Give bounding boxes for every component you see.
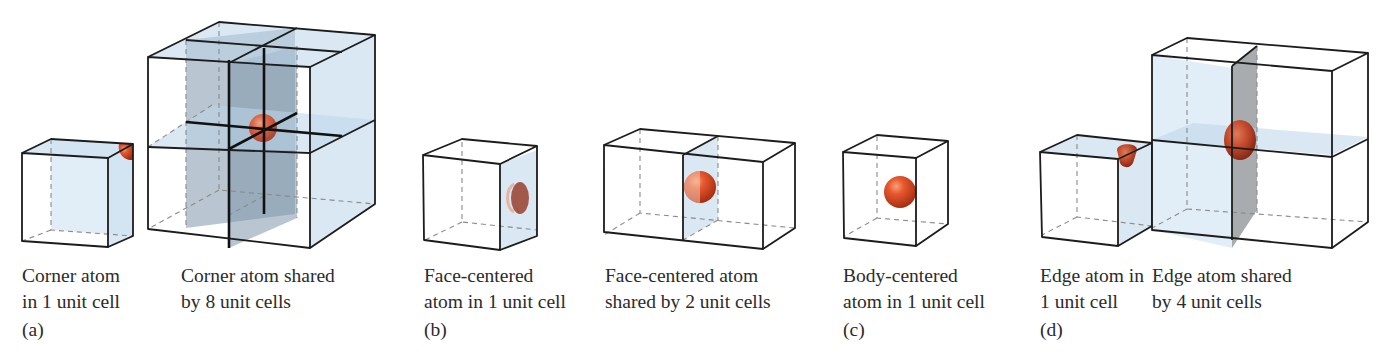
caption-line: atom in 1 unit cell xyxy=(843,289,985,315)
caption-edge-atom-4-cells: Edge atom shared by 4 unit cells xyxy=(1152,263,1292,315)
cube-face-atom-2-cells xyxy=(604,129,795,249)
caption-corner-atom-1-cell: Corner atom in 1 unit cell xyxy=(22,263,120,315)
caption-line: Edge atom in xyxy=(1040,263,1144,289)
panel-label-b: (b) xyxy=(424,318,447,342)
caption-line: Edge atom shared xyxy=(1152,263,1292,289)
caption-edge-atom-1-cell: Edge atom in 1 unit cell xyxy=(1040,263,1144,315)
caption-line: by 8 unit cells xyxy=(181,289,335,315)
cube-edge-atom-4-cells xyxy=(1152,38,1368,248)
body-centered-atom xyxy=(884,176,916,208)
caption-body-centered: Body-centered atom in 1 unit cell xyxy=(843,263,985,315)
caption-line: by 4 unit cells xyxy=(1152,289,1292,315)
caption-line: in 1 unit cell xyxy=(22,289,120,315)
cube-body-centered xyxy=(843,135,948,246)
panel-label-d: (d) xyxy=(1040,318,1063,342)
caption-line: shared by 2 unit cells xyxy=(605,289,771,315)
unit-cell-figure: Corner atom in 1 unit cell (a) Corner at… xyxy=(0,0,1383,363)
caption-face-atom-1-cell: Face-centered atom in 1 unit cell xyxy=(424,263,566,315)
caption-line: 1 unit cell xyxy=(1040,289,1144,315)
caption-line: Corner atom shared xyxy=(181,263,335,289)
caption-line: atom in 1 unit cell xyxy=(424,289,566,315)
caption-line: Corner atom xyxy=(22,263,120,289)
caption-line: Face-centered atom xyxy=(605,263,771,289)
cube-face-atom-1-cell xyxy=(423,139,537,250)
caption-line: Face-centered xyxy=(424,263,566,289)
caption-corner-atom-8-cells: Corner atom shared by 8 unit cells xyxy=(181,263,335,315)
panel-label-c: (c) xyxy=(843,318,865,342)
cube-edge-atom-1-cell xyxy=(1040,135,1152,246)
edge-atom-shared xyxy=(1224,120,1256,160)
panel-label-a: (a) xyxy=(22,318,44,342)
caption-line: Body-centered xyxy=(843,263,985,289)
cube-corner-atom-1-cell xyxy=(22,139,133,247)
caption-face-atom-2-cells: Face-centered atom shared by 2 unit cell… xyxy=(605,263,771,315)
cube-corner-atom-8-cells xyxy=(148,22,375,248)
